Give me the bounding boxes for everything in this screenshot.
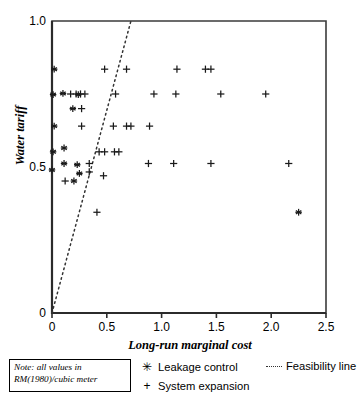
x-tick-label: 0.5 [98, 320, 115, 334]
plus-marker-icon: + [140, 379, 154, 393]
data-point-system-expansion [115, 148, 122, 155]
data-point-system-expansion [207, 160, 214, 167]
data-point-system-expansion [110, 123, 117, 130]
data-point-system-expansion [123, 66, 130, 73]
legend-item-leakage-control: ✳ Leakage control [140, 360, 238, 374]
data-point-leakage-control [76, 170, 82, 177]
dotted-line-icon [266, 366, 282, 367]
axes-spines [52, 21, 326, 313]
data-point-system-expansion [101, 66, 108, 73]
data-point-leakage-control [71, 178, 77, 185]
data-point-system-expansion [146, 123, 153, 130]
legend-item-feasibility-line: Feasibility line [266, 360, 356, 372]
y-tick-label: 1.0 [29, 14, 46, 28]
data-point-system-expansion [112, 90, 119, 97]
data-point-system-expansion [285, 160, 292, 167]
data-point-system-expansion [78, 123, 85, 130]
data-point-system-expansion [93, 209, 100, 216]
note-line-2: RM(1980)/cubic meter [14, 374, 126, 386]
legend-label-feasibility-line: Feasibility line [286, 360, 356, 372]
data-point-leakage-control [60, 90, 66, 97]
data-point-system-expansion [217, 90, 224, 97]
data-point-system-expansion [170, 160, 177, 167]
data-point-leakage-control [74, 161, 80, 168]
plot-area [0, 0, 358, 402]
legend: ✳ Leakage control + System expansion Fea… [140, 358, 355, 398]
data-point-system-expansion [150, 90, 157, 97]
data-point-system-expansion [262, 90, 269, 97]
data-point-leakage-control [50, 91, 56, 98]
data-point-leakage-control [50, 148, 56, 155]
note-line-1: Note: all values in [14, 362, 126, 374]
data-point-system-expansion [86, 168, 93, 175]
data-point-system-expansion [101, 148, 108, 155]
data-point-leakage-control [70, 105, 76, 112]
x-tick-label: 1.5 [208, 320, 225, 334]
data-point-system-expansion [172, 90, 179, 97]
scatter-chart-figure: Water tariff Long-run marginal cost 00.5… [0, 0, 358, 402]
legend-item-system-expansion: + System expansion [140, 379, 249, 393]
data-point-system-expansion [173, 66, 180, 73]
data-point-system-expansion [62, 177, 69, 184]
data-point-leakage-control [61, 145, 67, 152]
asterisk-marker-icon: ✳ [140, 360, 154, 374]
feasibility-line [52, 21, 131, 313]
data-point-system-expansion [207, 66, 214, 73]
x-tick-label: 1.0 [153, 320, 170, 334]
data-point-system-expansion [81, 90, 88, 97]
data-point-system-expansion [127, 123, 134, 130]
x-tick-label: 0 [49, 320, 56, 334]
data-point-leakage-control [295, 209, 301, 216]
data-point-system-expansion [78, 105, 85, 112]
note-box: Note: all values in RM(1980)/cubic meter [9, 359, 131, 392]
x-tick-label: 2.0 [263, 320, 280, 334]
legend-label-system-expansion: System expansion [158, 380, 249, 392]
data-point-system-expansion [145, 160, 152, 167]
data-point-leakage-control [49, 167, 55, 174]
data-point-leakage-control [61, 160, 67, 167]
data-point-system-expansion [100, 172, 107, 179]
legend-label-leakage-control: Leakage control [158, 361, 238, 373]
y-tick-label: 0 [39, 306, 46, 320]
axes-frame [52, 21, 326, 313]
y-tick-label: 0.5 [29, 160, 46, 174]
x-tick-label: 2.5 [318, 320, 335, 334]
